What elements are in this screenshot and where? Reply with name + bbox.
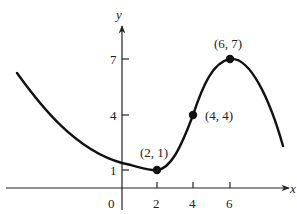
x-axis-label: x (289, 181, 296, 196)
x-tick-label-2: 2 (153, 196, 160, 211)
y-axis-label: y (114, 7, 122, 22)
y-tick-label-7: 7 (110, 52, 117, 67)
point-label-4-4: (4, 4) (205, 108, 233, 123)
function-graph: x y 0 2 4 6 1 4 7 (2, 1) (4, 4) (6, 7) (0, 0, 297, 214)
point-2-1 (153, 166, 161, 174)
point-label-6-7: (6, 7) (214, 36, 242, 51)
point-6-7 (226, 55, 234, 63)
origin-label: 0 (108, 196, 115, 211)
x-ticks: 2 4 6 (153, 182, 233, 211)
point-label-2-1: (2, 1) (140, 145, 168, 160)
x-tick-label-6: 6 (226, 196, 233, 211)
x-tick-label-4: 4 (189, 196, 196, 211)
y-tick-label-4: 4 (110, 108, 117, 123)
point-4-4 (189, 111, 197, 119)
y-tick-label-1: 1 (110, 163, 117, 178)
